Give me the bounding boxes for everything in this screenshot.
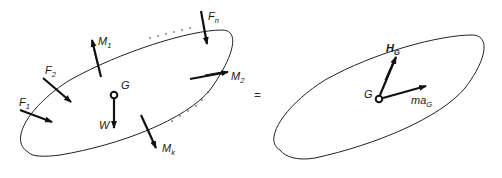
ellipsis-dots-top xyxy=(149,27,191,39)
center-of-mass-right xyxy=(376,96,383,103)
angular-momentum-label: HG xyxy=(386,42,400,57)
weight-label: W xyxy=(99,119,111,131)
moment-arrow-m2 xyxy=(190,72,228,79)
center-of-mass-left xyxy=(111,92,118,99)
free-body-diagram: F1 F2 M1 Fn M2 G W Mk xyxy=(19,10,245,157)
force-arrow-fn xyxy=(201,11,207,44)
angular-momentum-double xyxy=(385,62,393,80)
inertia-force-label: maG xyxy=(411,94,432,109)
center-label-left: G xyxy=(121,79,130,91)
moment-label-m2: M2 xyxy=(231,70,245,85)
body-outline-left xyxy=(20,30,232,156)
equals-sign: = xyxy=(254,88,261,102)
force-arrow-f1 xyxy=(20,110,52,122)
moment-label-mk: Mk xyxy=(162,142,176,157)
force-label-f2: F2 xyxy=(45,64,57,79)
angular-momentum-arrow xyxy=(380,57,396,95)
ellipsis-dots-right xyxy=(171,91,209,122)
force-label-f1: F1 xyxy=(19,96,30,111)
force-label-fn: Fn xyxy=(208,10,219,25)
kinetic-diagram-right: G HG maG xyxy=(274,35,484,159)
kinetic-diagram: F1 F2 M1 Fn M2 G W Mk = G HG xyxy=(0,0,502,178)
center-label-right: G xyxy=(364,88,373,100)
moment-label-m1: M1 xyxy=(98,35,111,50)
